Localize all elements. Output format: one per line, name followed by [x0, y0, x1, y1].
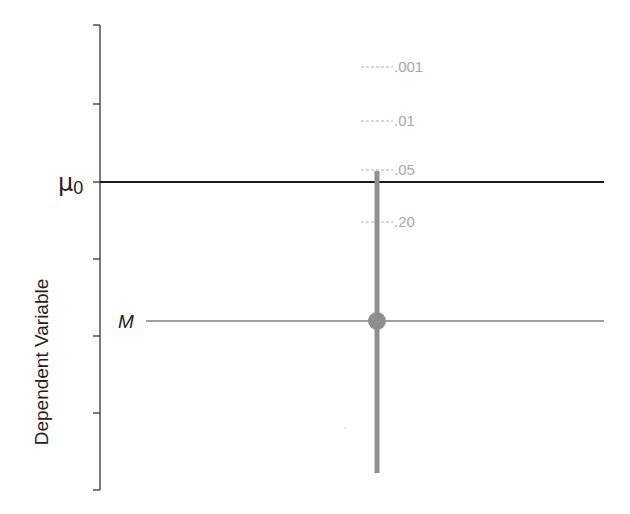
- p-label-01: .01: [394, 112, 415, 129]
- y-axis-label: Dependent Variable: [31, 279, 52, 446]
- p-label-20: .20: [394, 213, 415, 230]
- p-label-05: .05: [394, 161, 415, 178]
- mean-label: M: [118, 311, 134, 332]
- mean-point: [368, 312, 386, 330]
- mu0-label: μ0: [58, 169, 83, 198]
- chart-canvas: Dependent Variable μ0 M .001 .01 .05 .20: [0, 0, 630, 514]
- y-axis: [93, 25, 100, 490]
- cropped-caption: [0, 506, 630, 514]
- speck: [344, 427, 346, 429]
- p-label-001: .001: [394, 58, 423, 75]
